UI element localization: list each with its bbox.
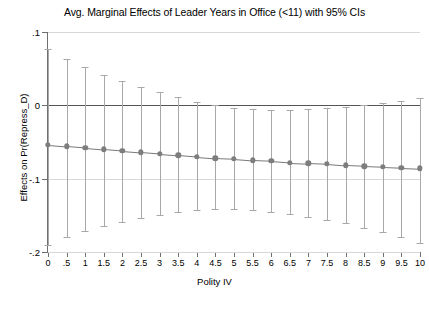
data-point-marker — [175, 152, 180, 157]
confidence-interval-cap — [361, 228, 368, 229]
data-point-marker — [268, 158, 273, 163]
y-axis-title: Effects on Pr(Repress_D) — [18, 63, 29, 233]
confidence-interval-cap — [82, 231, 89, 232]
x-axis-tick — [271, 253, 272, 257]
x-axis-tick-label: 9.5 — [395, 258, 408, 268]
x-axis-tick-label: 7.5 — [321, 258, 334, 268]
confidence-interval-cap — [268, 212, 275, 213]
x-axis-tick — [383, 253, 384, 257]
confidence-interval-cap — [119, 81, 126, 82]
confidence-interval-cap — [268, 110, 275, 111]
x-axis-title: Polity IV — [0, 276, 429, 287]
x-axis-tick-label: 5 — [231, 258, 236, 268]
confidence-interval-cap — [175, 212, 182, 213]
confidence-interval-cap — [138, 87, 145, 88]
x-axis-tick-label: 1.5 — [98, 258, 111, 268]
data-point-marker — [157, 151, 162, 156]
confidence-interval-cap — [249, 109, 256, 110]
x-axis-tick — [48, 253, 49, 257]
x-axis-tick — [308, 253, 309, 257]
y-axis-tick — [42, 179, 47, 180]
x-axis-tick — [290, 253, 291, 257]
x-axis-tick-label: 8.5 — [358, 258, 371, 268]
x-axis-tick — [67, 253, 68, 257]
x-axis-tick — [122, 253, 123, 257]
confidence-interval-cap — [63, 237, 70, 238]
y-axis-tick-label: .1 — [0, 27, 40, 38]
x-axis-tick-label: 2 — [120, 258, 125, 268]
data-point-marker — [250, 158, 255, 163]
confidence-interval-cap — [379, 232, 386, 233]
x-axis-tick-label: 2.5 — [135, 258, 148, 268]
confidence-interval-cap — [231, 209, 238, 210]
data-point-marker — [120, 148, 125, 153]
confidence-interval-cap — [305, 217, 312, 218]
confidence-interval-cap — [231, 108, 238, 109]
confidence-interval-cap — [100, 226, 107, 227]
x-axis-tick — [197, 253, 198, 257]
x-axis-tick-label: 3.5 — [172, 258, 185, 268]
x-axis-tick-label: 10 — [415, 258, 425, 268]
confidence-interval-cap — [324, 220, 331, 221]
confidence-interval-cap — [324, 108, 331, 109]
confidence-interval-cap — [212, 209, 219, 210]
x-axis-tick — [160, 253, 161, 257]
data-point-marker — [138, 150, 143, 155]
x-axis-tick — [141, 253, 142, 257]
confidence-interval-cap — [156, 92, 163, 93]
gridline-y — [48, 32, 420, 33]
data-point-marker — [64, 144, 69, 149]
data-point-marker — [324, 161, 329, 166]
data-point-marker — [343, 163, 348, 168]
data-point-marker — [399, 165, 404, 170]
confidence-interval-cap — [156, 215, 163, 216]
x-axis-tick-label: 7 — [306, 258, 311, 268]
x-axis-tick — [104, 253, 105, 257]
confidence-interval-cap — [398, 237, 405, 238]
y-axis-tick-label: 0 — [0, 100, 40, 111]
confidence-interval-cap — [45, 245, 52, 246]
data-point-marker — [380, 164, 385, 169]
confidence-interval-cap — [342, 107, 349, 108]
x-axis-tick-label: 8 — [343, 258, 348, 268]
confidence-interval-cap — [119, 222, 126, 223]
x-axis-tick — [346, 253, 347, 257]
plot-area — [48, 32, 420, 252]
data-point-marker — [213, 155, 218, 160]
x-axis-tick-label: 9 — [380, 258, 385, 268]
data-point-marker — [45, 142, 50, 147]
confidence-interval-cap — [342, 223, 349, 224]
confidence-interval-cap — [417, 243, 424, 244]
y-axis-tick — [42, 252, 47, 253]
x-axis-tick — [327, 253, 328, 257]
x-axis-tick-label: 6 — [269, 258, 274, 268]
confidence-interval-cap — [63, 59, 70, 60]
data-point-marker — [82, 145, 87, 150]
confidence-interval-cap — [417, 98, 424, 99]
confidence-interval-cap — [193, 210, 200, 211]
data-point-marker — [417, 166, 422, 171]
confidence-interval-cap — [398, 101, 405, 102]
data-point-marker — [361, 163, 366, 168]
x-axis-tick-label: 1 — [83, 258, 88, 268]
confidence-interval-cap — [100, 75, 107, 76]
data-point-marker — [101, 147, 106, 152]
confidence-interval-cap — [286, 214, 293, 215]
confidence-interval-cap — [175, 97, 182, 98]
data-point-marker — [231, 156, 236, 161]
y-axis-tick — [42, 105, 47, 106]
x-axis-tick-label: 3 — [157, 258, 162, 268]
confidence-interval-cap — [286, 110, 293, 111]
x-axis-tick-label: 0 — [45, 258, 50, 268]
chart-container: Avg. Marginal Effects of Leader Years in… — [0, 0, 429, 314]
confidence-interval-cap — [193, 102, 200, 103]
x-axis-tick — [234, 253, 235, 257]
x-axis-tick — [85, 253, 86, 257]
confidence-interval-cap — [361, 105, 368, 106]
y-axis-tick-label: -.2 — [0, 247, 40, 258]
x-axis-tick-label: 5.5 — [246, 258, 259, 268]
x-axis-tick — [178, 253, 179, 257]
x-axis-tick — [253, 253, 254, 257]
confidence-interval-cap — [138, 218, 145, 219]
confidence-interval-cap — [249, 210, 256, 211]
